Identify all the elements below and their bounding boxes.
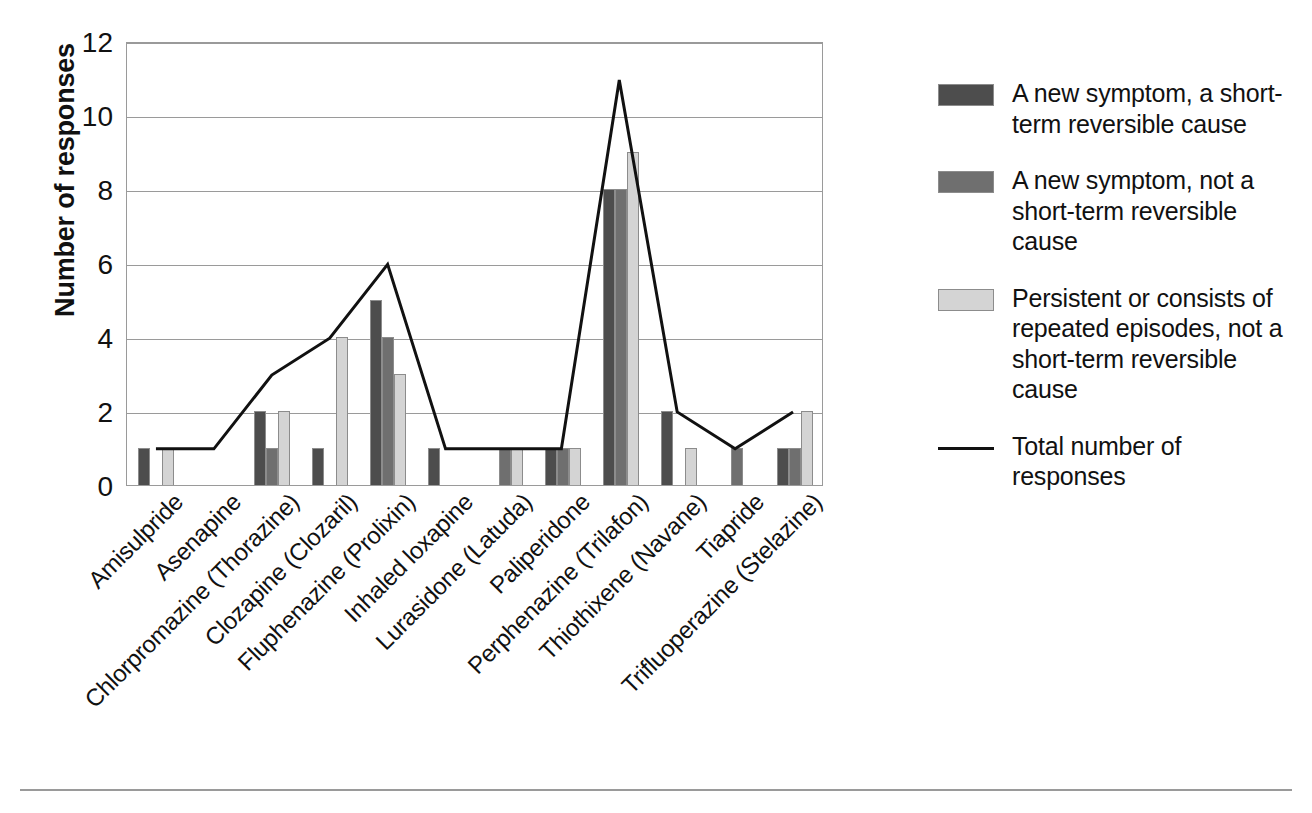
legend-item[interactable]: A new symptom, not a short-term reversib… bbox=[938, 165, 1298, 257]
legend-item[interactable]: A new symptom, a short-term reversible c… bbox=[938, 78, 1298, 139]
legend-swatch-icon bbox=[938, 289, 994, 311]
chart-page: Number of responses 024681012 Amisulprid… bbox=[0, 0, 1312, 813]
y-axis-tick-label: 12 bbox=[59, 27, 113, 59]
y-axis-tick-label: 8 bbox=[59, 175, 113, 207]
y-axis-tick-label: 0 bbox=[59, 471, 113, 503]
legend-item[interactable]: Persistent or consists of repeated episo… bbox=[938, 283, 1298, 405]
y-axis-tick-label: 2 bbox=[59, 397, 113, 429]
y-axis-tick-label: 6 bbox=[59, 249, 113, 281]
legend-item[interactable]: Total number of responses bbox=[938, 431, 1298, 492]
legend-label: Persistent or consists of repeated episo… bbox=[1012, 283, 1298, 405]
total-line-series bbox=[127, 43, 822, 486]
legend-swatch-icon bbox=[938, 84, 994, 106]
legend-swatch-icon bbox=[938, 171, 994, 193]
y-axis-tick-label: 4 bbox=[59, 323, 113, 355]
plot-area: 024681012 bbox=[126, 42, 823, 486]
y-axis-tick-label: 10 bbox=[59, 101, 113, 133]
legend-label: A new symptom, not a short-term reversib… bbox=[1012, 165, 1298, 257]
total-line-path bbox=[156, 80, 793, 449]
legend-line-icon bbox=[938, 437, 994, 459]
x-axis-labels: AmisulprideAsenapineChlorpromazine (Thor… bbox=[126, 488, 823, 788]
legend-label: A new symptom, a short-term reversible c… bbox=[1012, 78, 1298, 139]
legend-label: Total number of responses bbox=[1012, 431, 1298, 492]
footer-divider bbox=[20, 789, 1292, 791]
chart-legend: A new symptom, a short-term reversible c… bbox=[938, 78, 1298, 518]
